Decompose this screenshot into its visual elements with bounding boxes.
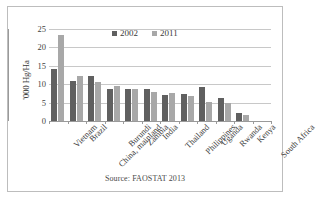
bar-group bbox=[234, 29, 253, 121]
legend-swatch-icon bbox=[112, 31, 117, 36]
bar-2011 bbox=[151, 92, 157, 121]
plot-area bbox=[49, 29, 271, 121]
bar-group bbox=[86, 29, 105, 121]
x-axis-label: South Africa bbox=[279, 122, 291, 160]
y-axis-tick-labels: 2520151050 bbox=[24, 29, 46, 121]
bar-group bbox=[160, 29, 179, 121]
bar-group bbox=[179, 29, 198, 121]
bar-2002 bbox=[70, 81, 76, 121]
y-axis-tick-label: 10 bbox=[26, 80, 46, 88]
legend-swatch-icon bbox=[152, 31, 157, 36]
bar-2011 bbox=[95, 82, 101, 121]
bar-group bbox=[253, 29, 272, 121]
chart-legend: 20022011 bbox=[112, 29, 178, 38]
bar-2011 bbox=[169, 93, 175, 121]
bar-2002 bbox=[236, 113, 242, 121]
legend-label: 2011 bbox=[160, 29, 178, 38]
legend-item-2002[interactable]: 2002 bbox=[112, 29, 138, 38]
bar-2011 bbox=[188, 96, 194, 121]
bar-group bbox=[49, 29, 68, 121]
legend-label: 2002 bbox=[120, 29, 138, 38]
y-axis-tick-label: 0 bbox=[26, 117, 46, 125]
bar-group bbox=[216, 29, 235, 121]
bar-2002 bbox=[218, 98, 224, 121]
source-note: Source: FAOSTAT 2013 bbox=[8, 174, 282, 183]
bar-group bbox=[105, 29, 124, 121]
y-axis-line bbox=[8, 29, 9, 121]
bar-group bbox=[68, 29, 87, 121]
bar-2002 bbox=[144, 89, 150, 121]
y-axis-tick-label: 25 bbox=[26, 25, 46, 33]
bar-group bbox=[197, 29, 216, 121]
bar-2002 bbox=[181, 94, 187, 121]
bar-2011 bbox=[225, 103, 231, 121]
chart-frame: '000 Hg/Ha 2520151050 20022011 VietnamBr… bbox=[7, 6, 283, 192]
y-axis-tick-label: 20 bbox=[26, 43, 46, 51]
bar-2002 bbox=[125, 89, 131, 121]
bar-2011 bbox=[243, 115, 249, 121]
bar-2011 bbox=[132, 89, 138, 121]
bar-2011 bbox=[77, 76, 83, 121]
bar-group bbox=[123, 29, 142, 121]
bar-2011 bbox=[58, 35, 64, 121]
bar-2002 bbox=[162, 95, 168, 121]
bar-2002 bbox=[51, 69, 57, 121]
y-axis-tick-label: 5 bbox=[26, 99, 46, 107]
bar-2011 bbox=[114, 86, 120, 121]
bar-2002 bbox=[199, 87, 205, 121]
bar-2011 bbox=[206, 102, 212, 122]
legend-item-2011[interactable]: 2011 bbox=[152, 29, 178, 38]
bar-group bbox=[142, 29, 161, 121]
bar-2002 bbox=[107, 89, 113, 121]
bar-2002 bbox=[88, 76, 94, 121]
y-axis-tick-label: 15 bbox=[26, 62, 46, 70]
